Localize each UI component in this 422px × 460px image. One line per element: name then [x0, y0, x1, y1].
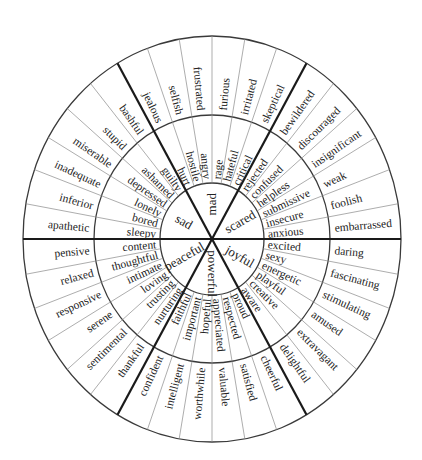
- tertiary-emotion: inferior: [58, 191, 95, 212]
- tertiary-emotion: weak: [321, 169, 348, 190]
- core-emotion-mad: mad: [205, 193, 220, 216]
- tertiary-emotion: apathetic: [48, 218, 90, 235]
- tertiary-emotion: relaxed: [59, 267, 95, 287]
- tertiary-emotion: thankful: [115, 341, 147, 379]
- core-emotion-sad: sad: [173, 211, 196, 233]
- tertiary-emotion: cheerful: [259, 353, 286, 392]
- tertiary-emotion: inadequate: [52, 158, 103, 191]
- wheel-spokes: [23, 36, 401, 442]
- wheel-labels: scaredanxiousinsecuresubmissivehelplessc…: [48, 66, 393, 420]
- tertiary-emotion: amused: [309, 308, 345, 338]
- core-emotion-peaceful: peaceful: [161, 239, 207, 274]
- tertiary-emotion: frustrated: [191, 66, 207, 111]
- tertiary-emotion: furious: [217, 77, 232, 111]
- tertiary-emotion: embarrassed: [334, 217, 393, 234]
- tertiary-emotion: satisfied: [238, 362, 260, 402]
- tertiary-emotion: fascinating: [329, 267, 381, 293]
- tertiary-emotion: jealous: [139, 89, 165, 125]
- tertiary-emotion: worthwhile: [191, 367, 208, 420]
- tertiary-emotion: pensive: [54, 244, 90, 260]
- tertiary-emotion: valuable: [217, 367, 232, 407]
- tertiary-emotion: foolish: [329, 191, 363, 211]
- tertiary-emotion: miserable: [71, 134, 115, 169]
- feeling-wheel: scaredanxiousinsecuresubmissivehelplessc…: [0, 0, 422, 460]
- tertiary-emotion: daring: [334, 244, 365, 260]
- tertiary-emotion: intelligent: [162, 361, 187, 410]
- tertiary-emotion: selfish: [167, 84, 186, 116]
- tertiary-emotion: confident: [136, 353, 166, 398]
- core-emotion-powerful: powerful: [205, 250, 220, 297]
